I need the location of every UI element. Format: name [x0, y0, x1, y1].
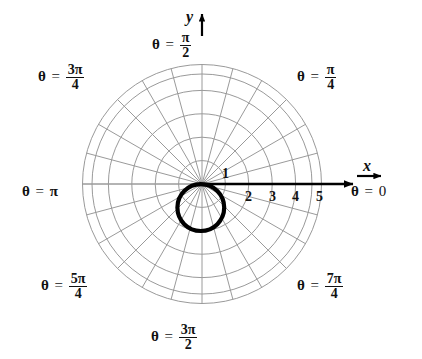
fraction-numerator: 5π [69, 272, 88, 287]
theta-symbol: θ [151, 328, 159, 344]
theta-symbol: θ [38, 68, 46, 84]
zero-value: 0 [379, 183, 387, 199]
fraction-pi-over-2: π 2 [180, 31, 192, 61]
x-axis-label: x [363, 157, 371, 175]
theta-symbol: θ [152, 36, 160, 52]
fraction-denominator: 4 [66, 78, 85, 92]
fraction-5pi-over-4: 5π 4 [69, 272, 88, 302]
theta-symbol: θ [297, 68, 305, 84]
equals-sign: = [309, 68, 321, 84]
grid-spoke-60 [202, 81, 262, 185]
angle-label-pi: θ = π [22, 184, 58, 199]
fraction-3pi-over-4: 3π 4 [66, 63, 85, 93]
theta-symbol: θ [41, 277, 49, 293]
radial-tick-5: 5 [316, 189, 323, 205]
radial-tick-1: 1 [222, 166, 229, 182]
theta-symbol: θ [351, 183, 359, 199]
fraction-denominator: 2 [179, 338, 198, 352]
equals-sign: = [50, 68, 62, 84]
angle-label-7pi-over-4: θ = 7π 4 [297, 272, 343, 302]
fraction-denominator: 2 [180, 46, 192, 60]
radial-tick-4: 4 [292, 189, 299, 205]
theta-symbol: θ [297, 277, 305, 293]
fraction-numerator: 7π [325, 272, 344, 287]
equals-sign: = [309, 277, 321, 293]
grid-spoke-135 [118, 100, 203, 185]
equals-sign: = [163, 328, 175, 344]
polar-plot-figure: y x θ = π 2 θ = 3π 4 θ = π 4 θ = π θ [0, 0, 422, 359]
equals-sign: = [363, 183, 375, 199]
angle-label-zero: θ = 0 [351, 184, 386, 199]
fraction-denominator: 4 [69, 287, 88, 301]
fraction-numerator: π [180, 31, 192, 46]
fraction-numerator: 3π [66, 63, 85, 78]
radial-tick-2: 2 [245, 189, 252, 205]
angle-label-pi-over-2: θ = π 2 [152, 31, 191, 61]
fraction-3pi-over-2: 3π 2 [179, 323, 198, 353]
angle-label-pi-over-4: θ = π 4 [297, 63, 336, 93]
fraction-numerator: π [325, 63, 337, 78]
grid-spoke-120 [142, 81, 202, 185]
pi-symbol: π [50, 183, 58, 199]
equals-sign: = [53, 277, 65, 293]
grid-spoke-210 [99, 184, 203, 244]
grid-spoke-30 [202, 124, 306, 184]
fraction-denominator: 4 [325, 78, 337, 92]
grid-spoke-240 [142, 184, 202, 288]
fraction-denominator: 4 [325, 287, 344, 301]
equals-sign: = [34, 183, 46, 199]
theta-symbol: θ [22, 183, 30, 199]
fraction-pi-over-4: π 4 [325, 63, 337, 93]
angle-label-5pi-over-4: θ = 5π 4 [41, 272, 87, 302]
radial-tick-3: 3 [269, 189, 276, 205]
grid-spoke-300 [202, 184, 262, 288]
fraction-numerator: 3π [179, 323, 198, 338]
fraction-7pi-over-4: 7π 4 [325, 272, 344, 302]
angle-label-3pi-over-2: θ = 3π 2 [151, 323, 197, 353]
angle-label-3pi-over-4: θ = 3π 4 [38, 63, 84, 93]
equals-sign: = [164, 36, 176, 52]
grid-spoke-150 [99, 124, 203, 184]
grid-spoke-45 [202, 100, 287, 185]
polar-grid-svg [0, 0, 422, 359]
y-axis-label: y [186, 8, 193, 26]
